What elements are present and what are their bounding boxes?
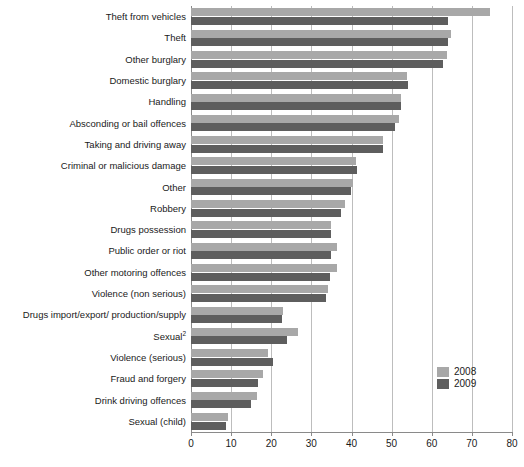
x-tick-label-60: 60 [426, 438, 437, 450]
category-row: Theft from vehicles [0, 6, 524, 27]
category-label: Violence (serious) [0, 352, 186, 363]
legend-swatch-2009 [437, 379, 449, 389]
category-label: Theft from vehicles [0, 11, 186, 22]
category-row: Sexual (child) [0, 411, 524, 432]
legend: 2008 2009 [437, 366, 509, 394]
legend-label-2008: 2008 [454, 366, 476, 378]
category-label: Domestic burglary [0, 75, 186, 86]
x-tick-label-50: 50 [386, 438, 397, 450]
bar-2008 [191, 179, 353, 187]
category-label: Public order or riot [0, 245, 186, 256]
category-label: Fraud and forgery [0, 373, 186, 384]
x-tick-label-0: 0 [188, 438, 194, 450]
bar-2008 [191, 285, 328, 293]
category-row: Drugs import/export/ production/supply [0, 304, 524, 325]
category-label: Sexual (child) [0, 416, 186, 427]
bar-2008 [191, 72, 407, 80]
category-row: Taking and driving away [0, 134, 524, 155]
bar-2008 [191, 200, 345, 208]
category-footnote-marker: 2 [182, 329, 186, 336]
bar-2009 [191, 123, 395, 131]
bar-2008 [191, 94, 401, 102]
bar-2009 [191, 81, 408, 89]
category-row: Absconding or bail offences [0, 113, 524, 134]
category-row: Other motoring offences [0, 262, 524, 283]
x-tick-label-30: 30 [306, 438, 317, 450]
legend-entry-2009: 2009 [437, 378, 509, 390]
bar-2009 [191, 336, 287, 344]
category-row: Other burglary [0, 49, 524, 70]
legend-entry-2008: 2008 [437, 366, 509, 378]
x-tick-label-80: 80 [506, 438, 517, 450]
x-tick-label-20: 20 [266, 438, 277, 450]
bar-2008 [191, 51, 447, 59]
bar-2008 [191, 30, 451, 38]
bar-2009 [191, 315, 282, 323]
bar-2008 [191, 8, 490, 16]
bar-2009 [191, 38, 448, 46]
category-label: Criminal or malicious damage [0, 160, 186, 171]
x-tick-label-70: 70 [466, 438, 477, 450]
category-row: Criminal or malicious damage [0, 155, 524, 176]
bar-2008 [191, 307, 283, 315]
x-tick-label-10: 10 [226, 438, 237, 450]
x-tick-label-40: 40 [346, 438, 357, 450]
bar-2009 [191, 294, 326, 302]
category-row: Other [0, 176, 524, 197]
bar-2008 [191, 413, 228, 421]
category-row: Public order or riot [0, 240, 524, 261]
category-label: Sexual2 [0, 331, 186, 342]
bar-2009 [191, 166, 357, 174]
category-row: Theft [0, 27, 524, 48]
bar-2008 [191, 221, 331, 229]
bar-2008 [191, 115, 399, 123]
category-label: Robbery [0, 203, 186, 214]
category-label: Absconding or bail offences [0, 118, 186, 129]
bar-2009 [191, 379, 258, 387]
bar-2009 [191, 400, 251, 408]
bar-2009 [191, 358, 273, 366]
category-label: Drink driving offences [0, 395, 186, 406]
bar-2009 [191, 230, 331, 238]
x-tick-20 [271, 432, 272, 436]
legend-swatch-2008 [437, 367, 449, 377]
bar-2009 [191, 273, 330, 281]
category-label: Drugs import/export/ production/supply [0, 309, 186, 320]
category-label: Handling [0, 96, 186, 107]
x-tick-80 [512, 432, 513, 436]
category-row: Drugs possession [0, 219, 524, 240]
bar-2008 [191, 392, 257, 400]
bar-2008 [191, 243, 337, 251]
bar-2008 [191, 264, 337, 272]
x-tick-0 [191, 432, 192, 436]
bar-2009 [191, 187, 351, 195]
category-row: Robbery [0, 198, 524, 219]
category-row: Handling [0, 91, 524, 112]
bar-2009 [191, 102, 401, 110]
x-tick-10 [231, 432, 232, 436]
bar-2008 [191, 136, 383, 144]
bar-2009 [191, 422, 226, 430]
legend-label-2009: 2009 [454, 378, 476, 390]
category-row: Violence (non serious) [0, 283, 524, 304]
bar-2008 [191, 157, 356, 165]
category-row: Domestic burglary [0, 70, 524, 91]
category-row: Violence (serious) [0, 347, 524, 368]
category-label: Theft [0, 32, 186, 43]
bar-2009 [191, 251, 331, 259]
x-tick-50 [392, 432, 393, 436]
bar-2009 [191, 17, 448, 25]
bar-2008 [191, 328, 298, 336]
category-label: Other motoring offences [0, 267, 186, 278]
x-tick-40 [352, 432, 353, 436]
category-label: Violence (non serious) [0, 288, 186, 299]
x-tick-60 [432, 432, 433, 436]
category-label: Other [0, 182, 186, 193]
bar-2009 [191, 145, 383, 153]
category-row: Sexual2 [0, 326, 524, 347]
bar-2009 [191, 60, 443, 68]
x-tick-30 [311, 432, 312, 436]
category-label: Other burglary [0, 54, 186, 65]
bar-2008 [191, 370, 263, 378]
bar-2008 [191, 349, 268, 357]
